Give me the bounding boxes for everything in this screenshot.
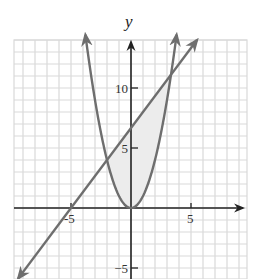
y-tick-label: −5 <box>114 261 128 276</box>
graph-canvas: -55105−5 y <box>0 0 256 279</box>
y-axis-label: y <box>123 12 133 31</box>
x-tick-label: 5 <box>187 211 194 226</box>
y-tick-label: 10 <box>115 81 128 96</box>
curves <box>18 35 197 279</box>
x-tick-label: -5 <box>64 211 75 226</box>
y-tick-label: 5 <box>122 141 129 156</box>
